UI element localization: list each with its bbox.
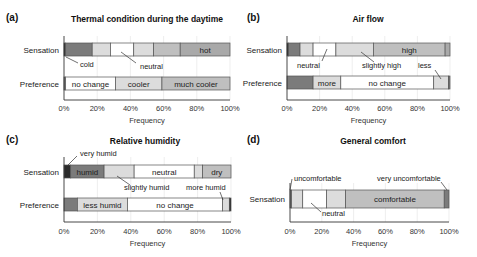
row-label-sensation: Sensation — [23, 168, 59, 177]
bar-segment — [287, 76, 313, 89]
panel-a: (a)Thermal condition during the daytimeS… — [6, 12, 240, 125]
bar-segment — [289, 43, 300, 56]
bar-segment — [110, 43, 133, 56]
x-tick-label: 100% — [440, 104, 460, 113]
x-tick-label: 0% — [59, 227, 70, 236]
x-tick-label: 0% — [285, 227, 296, 236]
panel-d: (d)General comfortSensationcomfortable0%… — [247, 134, 459, 248]
row-label-sensation: Sensation — [23, 46, 59, 55]
segment-label: dry — [211, 168, 222, 177]
x-tick-label: 20% — [90, 104, 105, 113]
segment-label: no change — [156, 201, 194, 210]
x-tick-label: 0% — [282, 104, 293, 113]
x-tick-label: 40% — [123, 104, 138, 113]
x-tick-label: 80% — [190, 227, 205, 236]
segment-label: much cooler — [174, 80, 218, 89]
panel-b: (b)Air flowSensationhighPreferencemoreno… — [243, 12, 460, 125]
x-tick-label: 0% — [59, 104, 70, 113]
panel-label: (c) — [6, 134, 18, 145]
segment-label: more — [318, 79, 337, 88]
bar-segment — [434, 76, 449, 89]
annotation-label: uncomfortable — [294, 174, 342, 183]
x-tick-label: 60% — [156, 104, 171, 113]
bar-segment — [300, 43, 313, 56]
segment-label: neutral — [152, 168, 177, 177]
bar-segment — [445, 43, 450, 56]
segment-label: no change — [369, 79, 407, 88]
annotation-leader — [66, 57, 78, 63]
row-label-sensation: Sensation — [246, 46, 282, 55]
segment-label: no change — [72, 80, 110, 89]
bar-segment — [154, 43, 181, 56]
annotation-label: neutral — [140, 62, 163, 71]
x-tick-label: 20% — [314, 227, 329, 236]
bar-segment — [327, 190, 346, 208]
segment-label: less humid — [83, 201, 121, 210]
x-tick-label: 80% — [410, 227, 425, 236]
annotation-label: very uncomfortable — [377, 174, 441, 183]
annotation-label: very humid — [80, 149, 117, 158]
x-tick-label: 100% — [221, 227, 241, 236]
bar-segment — [66, 43, 93, 56]
x-tick-label: 40% — [346, 227, 361, 236]
annotation-label: less — [418, 61, 432, 70]
segment-label: hot — [200, 46, 212, 55]
bar-segment — [313, 43, 336, 56]
x-tick-label: 20% — [312, 104, 327, 113]
bar-segment — [64, 198, 77, 211]
annotation-label: cold — [80, 60, 94, 69]
panel-label: (b) — [247, 12, 260, 23]
bar-segment — [444, 190, 449, 208]
bar-segment — [223, 198, 230, 211]
x-tick-label: 80% — [189, 104, 204, 113]
x-tick-label: 20% — [90, 227, 105, 236]
annotation-leader — [441, 182, 447, 190]
figure: (a)Thermal condition during the daytimeS… — [0, 0, 477, 257]
segment-label: cooler — [128, 80, 150, 89]
bar-segment — [292, 190, 303, 208]
annotation-label: slightly high — [362, 61, 401, 70]
annotation-label: slightly humid — [124, 183, 169, 192]
chart-title: Relative humidity — [110, 136, 181, 146]
bar-segment — [194, 165, 202, 178]
panel-label: (d) — [247, 134, 260, 145]
panel-label: (a) — [6, 12, 18, 23]
chart-title: Air flow — [352, 14, 384, 24]
chart-title: Thermal condition during the daytime — [71, 14, 223, 24]
bar-segment — [448, 76, 450, 89]
x-tick-label: 60% — [377, 104, 392, 113]
x-axis-label: Frequency — [352, 239, 388, 248]
x-tick-label: 60% — [378, 227, 393, 236]
bar-segment — [104, 165, 134, 178]
annotation-label: neutral — [297, 61, 320, 70]
bar-segment — [92, 43, 110, 56]
chart-title: General comfort — [340, 136, 406, 146]
bar-segment — [336, 43, 373, 56]
bar-segment — [134, 43, 154, 56]
row-label-sensation: Sensation — [249, 195, 285, 204]
x-axis-label: Frequency — [129, 116, 165, 125]
x-axis-label: Frequency — [351, 116, 387, 125]
x-tick-label: 40% — [123, 227, 138, 236]
segment-label: humid — [76, 168, 98, 177]
x-tick-label: 40% — [345, 104, 360, 113]
annotation-label: more humid — [186, 183, 226, 192]
x-axis-label: Frequency — [130, 239, 166, 248]
bar-segment — [303, 190, 327, 208]
panel-c: (c)Relative humiditySensationhumidneutra… — [6, 134, 241, 248]
segment-label: comfortable — [374, 195, 416, 204]
row-label-preference: Preference — [20, 80, 60, 89]
row-label-preference: Preference — [20, 201, 60, 210]
x-tick-label: 80% — [410, 104, 425, 113]
row-label-preference: Preference — [243, 79, 283, 88]
bar-segment — [64, 165, 71, 178]
annotation-label: neutral — [322, 209, 345, 218]
x-tick-label: 100% — [439, 227, 459, 236]
x-tick-label: 100% — [220, 104, 240, 113]
x-tick-label: 60% — [157, 227, 172, 236]
bar-segment — [229, 198, 231, 211]
segment-label: high — [402, 46, 417, 55]
annotation-leader — [67, 156, 77, 166]
